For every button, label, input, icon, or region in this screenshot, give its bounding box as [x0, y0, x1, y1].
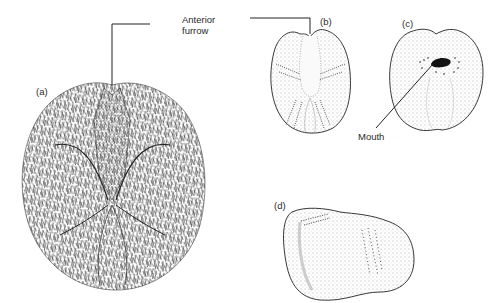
panel-d-label: (d): [274, 200, 286, 211]
panel-c-label: (c): [402, 18, 413, 29]
panel-b-label: (b): [320, 16, 332, 27]
panel-b-test: [271, 30, 351, 134]
panel-d-test: [284, 208, 414, 300]
mouth-label: Mouth: [358, 131, 384, 142]
echinoid-diagram: [0, 0, 500, 303]
anterior-furrow-label: Anterior furrow: [182, 14, 215, 36]
panel-a-label: (a): [36, 86, 48, 97]
panel-c-test: [390, 29, 483, 130]
panel-a-urchin: [22, 83, 205, 290]
